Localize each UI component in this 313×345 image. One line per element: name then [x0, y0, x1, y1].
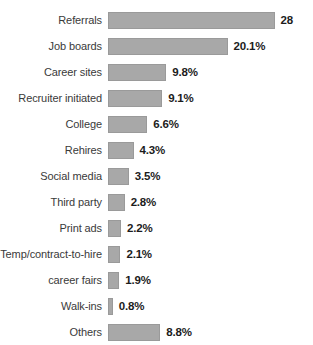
bar-row: Others 8.8%	[0, 319, 313, 345]
bar-segment	[108, 64, 166, 81]
category-label: Others	[0, 326, 108, 339]
bar-value-label: 1.9%	[119, 274, 150, 286]
bar-segment	[108, 142, 134, 159]
bar-track: 2.2%	[108, 220, 313, 237]
category-label: Career sites	[0, 66, 108, 79]
bar-track: 9.8%	[108, 64, 313, 81]
bar-value-label: 2.8%	[125, 196, 156, 208]
category-label: Walk-ins	[0, 300, 108, 313]
bar-track: 9.1%	[108, 90, 313, 107]
bar-value-label: 2.1%	[120, 248, 151, 260]
bar-row: Career sites 9.8%	[0, 59, 313, 85]
bar-segment	[108, 168, 129, 185]
bar-segment	[108, 12, 275, 29]
bar-value-label: 2.2%	[121, 222, 152, 234]
bar-row: Rehires 4.3%	[0, 137, 313, 163]
category-label: College	[0, 118, 108, 131]
bar-row: career fairs 1.9%	[0, 267, 313, 293]
category-label: Recruiter initiated	[0, 92, 108, 105]
bar-track: 0.8%	[108, 298, 313, 315]
bar-segment	[108, 194, 125, 211]
bar-track: 20.1%	[108, 38, 313, 55]
bar-segment	[108, 324, 160, 341]
bar-segment	[108, 220, 121, 237]
bar-track: 4.3%	[108, 142, 313, 159]
bar-value-label: 4.3%	[134, 144, 165, 156]
category-label: Referrals	[0, 14, 108, 27]
bar-value-label: 0.8%	[113, 300, 144, 312]
category-label: Print ads	[0, 222, 108, 235]
bar-row: Job boards 20.1%	[0, 33, 313, 59]
bar-track: 3.5%	[108, 168, 313, 185]
category-label: Job boards	[0, 40, 108, 53]
bar-value-label: 3.5%	[129, 170, 160, 182]
bar-value-label: 6.6%	[147, 118, 178, 130]
bar-value-label: 9.8%	[166, 66, 197, 78]
bar-segment	[108, 90, 162, 107]
bar-segment	[108, 116, 147, 133]
bar-row: Third party 2.8%	[0, 189, 313, 215]
category-label: Third party	[0, 196, 108, 209]
bar-value-label: 20.1%	[228, 40, 266, 52]
category-label: Social media	[0, 170, 108, 183]
category-label: Temp/contract-to-hire	[0, 248, 108, 261]
bar-segment	[108, 38, 228, 55]
bar-segment	[108, 246, 120, 263]
bar-row: College 6.6%	[0, 111, 313, 137]
category-label: Rehires	[0, 144, 108, 157]
bar-row: Social media 3.5%	[0, 163, 313, 189]
bar-row: Walk-ins 0.8%	[0, 293, 313, 319]
bar-row: Print ads 2.2%	[0, 215, 313, 241]
bar-segment	[108, 272, 119, 289]
bar-row: Referrals 28	[0, 7, 313, 33]
bar-track: 2.1%	[108, 246, 313, 263]
bar-track: 28	[108, 12, 313, 29]
bar-row: Recruiter initiated 9.1%	[0, 85, 313, 111]
bar-track: 8.8%	[108, 324, 313, 341]
bar-track: 6.6%	[108, 116, 313, 133]
category-label: career fairs	[0, 274, 108, 287]
bar-value-label: 28	[275, 14, 293, 26]
bar-value-label: 9.1%	[162, 92, 193, 104]
bar-track: 2.8%	[108, 194, 313, 211]
bar-row: Temp/contract-to-hire 2.1%	[0, 241, 313, 267]
bar-track: 1.9%	[108, 272, 313, 289]
bar-value-label: 8.8%	[160, 326, 191, 338]
